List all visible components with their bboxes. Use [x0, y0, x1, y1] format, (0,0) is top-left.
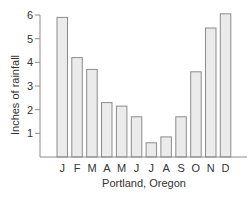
- y-tick-label: 4: [27, 56, 33, 68]
- x-tick-label: O: [192, 162, 201, 174]
- x-tick-label: J: [134, 162, 140, 174]
- x-tick-label: J: [60, 162, 66, 174]
- y-tick-label: 5: [27, 33, 33, 45]
- y-tick-label: 2: [27, 104, 33, 116]
- x-tick-label: D: [222, 162, 230, 174]
- bar-2: [87, 69, 98, 157]
- rainfall-bar-chart: 123456 JFMAMJJASOND Inches of rainfall P…: [0, 0, 252, 198]
- y-tick-label: 6: [27, 9, 33, 21]
- x-tick-label: N: [207, 162, 215, 174]
- x-tick-label: A: [103, 162, 111, 174]
- x-tick-label: J: [149, 162, 155, 174]
- x-tick-label: M: [87, 162, 96, 174]
- y-ticks-group: 123456: [27, 9, 40, 139]
- bar-9: [191, 72, 202, 157]
- chart-svg: 123456 JFMAMJJASOND Inches of rainfall P…: [0, 0, 252, 198]
- bar-7: [161, 137, 172, 157]
- x-tick-label: S: [177, 162, 184, 174]
- bar-0: [57, 17, 68, 157]
- bar-6: [146, 143, 157, 157]
- y-axis-label: Inches of rainfall: [9, 55, 21, 135]
- bar-10: [206, 28, 217, 157]
- x-tick-label: A: [163, 162, 171, 174]
- y-tick-label: 3: [27, 80, 33, 92]
- x-tick-label: F: [74, 162, 81, 174]
- x-tick-label: M: [117, 162, 126, 174]
- bar-11: [220, 14, 231, 157]
- bar-3: [102, 103, 113, 157]
- bar-4: [116, 106, 127, 157]
- y-tick-label: 1: [27, 127, 33, 139]
- bars-group: [57, 14, 231, 157]
- x-axis-label: Portland, Oregon: [102, 177, 186, 189]
- bar-5: [131, 117, 142, 157]
- x-ticks-group: JFMAMJJASOND: [60, 162, 230, 174]
- bar-1: [72, 58, 83, 157]
- bar-8: [176, 117, 187, 157]
